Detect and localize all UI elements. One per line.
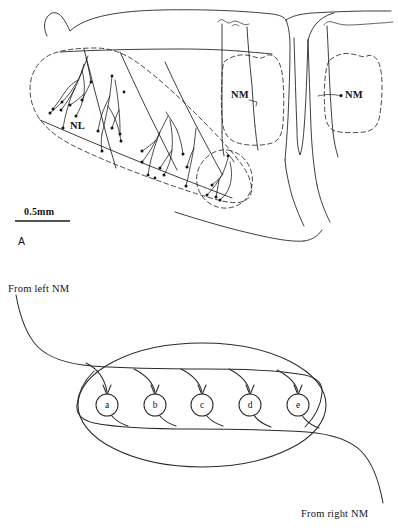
node-a[interactable]: a [96,394,118,416]
panel-a-svg [0,0,398,265]
section-outline [45,10,392,242]
node-b-label: b [153,400,158,410]
nl-neuron-nodes: a b c d e [96,394,309,416]
scale-bar-label: 0.5mm [24,206,54,217]
node-c-label: c [200,400,204,410]
node-e-label: e [296,400,300,410]
figure-container: NL NM NM 0.5mm A [0,0,398,530]
panel-b-svg: a b c d e [0,265,398,530]
axon-arbors-2 [98,76,121,151]
right-nm-axon [77,371,383,503]
label-from-right-nm: From right NM [301,508,368,519]
node-d-label: d [248,400,253,410]
panel-a-label-nm-left: NM [231,89,249,100]
axon-arbors [50,56,91,128]
node-e[interactable]: e [287,394,309,416]
node-b[interactable]: b [144,394,166,416]
panel-a-letter: A [18,235,25,247]
panel-a-label-nm-right: NM [345,89,363,100]
left-nm-axon [16,295,322,427]
node-c[interactable]: c [191,394,213,416]
panel-b-schematic-diagram: a b c d e NL [0,265,398,530]
node-d[interactable]: d [239,394,261,416]
label-from-left-nm: From left NM [8,283,69,294]
nl-sub-region-outline [197,150,253,208]
panel-a-anatomical-drawing: NL NM NM 0.5mm A [0,0,398,265]
panel-a-label-nl: NL [70,120,85,131]
